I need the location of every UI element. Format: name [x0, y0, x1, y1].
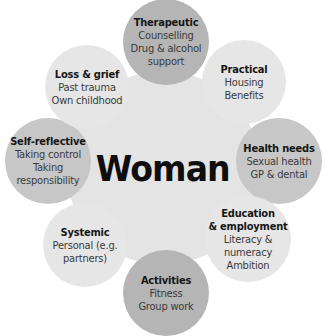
node-education-employment: Education & employment Literacy & numera…	[205, 196, 291, 282]
node-line: numeracy	[224, 246, 272, 259]
node-self-reflective: Self-reflective Taking control Taking re…	[5, 118, 91, 204]
node-heading: Health needs	[243, 142, 314, 155]
node-line: responsibility	[16, 174, 79, 187]
node-heading: Education	[221, 207, 275, 220]
node-line: Sexual health	[247, 155, 312, 168]
node-practical: Practical Housing Benefits	[202, 40, 286, 124]
node-line: Literacy &	[224, 233, 273, 246]
node-line: Own childhood	[52, 94, 123, 107]
node-loss-grief: Loss & grief Past trauma Own childhood	[45, 45, 129, 129]
node-line: Fitness	[150, 287, 183, 300]
center-label: Woman	[96, 148, 230, 189]
node-activities: Activities Fitness Group work	[123, 250, 209, 336]
node-therapeutic: Therapeutic Counselling Drug & alcohol s…	[123, 0, 209, 85]
node-line: support	[148, 55, 185, 68]
node-line: Personal (e.g.	[53, 239, 118, 252]
node-heading-continued: & employment	[208, 220, 287, 233]
node-line: Counselling	[138, 29, 193, 42]
node-health-needs: Health needs Sexual health GP & dental	[236, 118, 322, 204]
node-heading: Loss & grief	[55, 68, 119, 81]
node-heading: Self-reflective	[10, 135, 86, 148]
node-line: Ambition	[227, 259, 270, 272]
node-heading: Practical	[221, 63, 268, 76]
node-line: Taking control	[15, 148, 81, 161]
node-heading: Activities	[141, 274, 191, 287]
node-line: Taking	[33, 161, 63, 174]
node-line: Drug & alcohol	[131, 42, 202, 55]
node-systemic: Systemic Personal (e.g. partners)	[43, 203, 127, 287]
node-line: partners)	[63, 252, 107, 265]
node-line: Housing	[225, 76, 264, 89]
node-heading: Therapeutic	[134, 16, 199, 29]
node-line: GP & dental	[251, 168, 308, 181]
node-heading: Systemic	[61, 226, 110, 239]
node-line: Group work	[138, 300, 193, 313]
node-line: Benefits	[225, 89, 264, 102]
node-line: Past trauma	[58, 81, 116, 94]
